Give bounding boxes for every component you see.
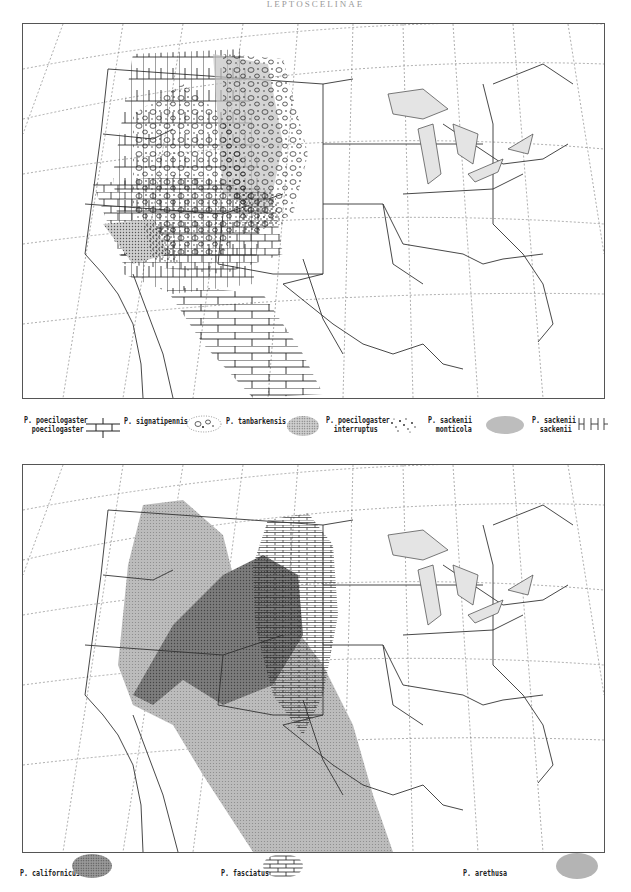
swatch-circles-icon <box>186 414 222 434</box>
great-lakes <box>388 530 533 625</box>
page-header: LEPTOSCELINAE <box>0 0 631 10</box>
legend-label-sackenii-sackenii: P. sackenii sackenii <box>532 416 576 434</box>
map-canvas-top <box>23 24 604 398</box>
great-lakes <box>388 89 533 184</box>
map-canvas-bottom <box>23 465 604 852</box>
swatch-fine-dots-icon <box>286 415 320 437</box>
distribution-map-bottom <box>22 464 605 853</box>
swatch-gray-shade-icon <box>485 415 525 435</box>
species-ranges-bottom <box>118 500 393 852</box>
swatch-open-grid-icon <box>86 418 120 438</box>
swatch-speckle-icon <box>386 415 420 435</box>
swatch-vertical-ticks-icon <box>577 416 609 434</box>
legend-label-signatipennis: P. signatipennis <box>124 417 188 426</box>
swatch-brick-icon <box>262 852 304 880</box>
species-ranges-top <box>93 49 323 398</box>
swatch-dark-dots-icon <box>70 852 114 882</box>
legend-label-poecilogaster-poecilogaster: P. poecilogaster poecilogaster <box>24 416 88 434</box>
legend-label-poecilogaster-interruptus: P. poecilogaster interruptus <box>326 416 390 434</box>
distribution-map-top <box>22 23 605 399</box>
legend-label-tanbarkensis: P. tanbarkensis <box>226 417 286 426</box>
legend-label-arethusa: P. arethusa <box>463 869 507 878</box>
swatch-light-gray-icon <box>555 852 599 882</box>
legend-label-sackenii-monticola: P. sackenii monticola <box>428 416 472 434</box>
